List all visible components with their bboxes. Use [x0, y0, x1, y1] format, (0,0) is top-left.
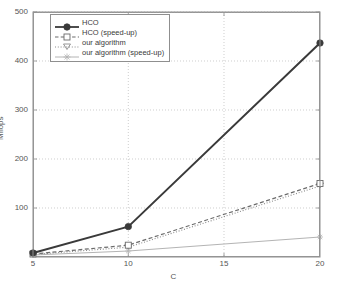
legend-item-our-algorithm-speedup: our algorithm (speed-up) [54, 48, 164, 58]
legend-label: our algorithm [80, 38, 126, 48]
legend-marker-open-square-icon [54, 28, 80, 38]
y-tick-label: 500 [0, 8, 28, 16]
legend-marker-filled-circle-icon [54, 18, 80, 28]
legend-marker-star-icon [54, 48, 80, 58]
legend-item-hco-speedup: HCO (speed-up) [54, 28, 164, 38]
y-tick-label: 300 [0, 106, 28, 114]
series-hco [30, 40, 323, 256]
series-our-algorithm [30, 183, 324, 257]
legend-marker-triangle-down-icon [54, 38, 80, 48]
x-tick-label: 15 [212, 260, 236, 268]
y-axis-label: Mflops [0, 116, 5, 140]
legend-label: our algorithm (speed-up) [80, 48, 164, 58]
legend-item-our-algorithm: our algorithm [54, 38, 164, 48]
y-tick-label: 200 [0, 155, 28, 163]
x-axis-label: C [0, 272, 347, 281]
x-tick-label: 5 [21, 260, 45, 268]
series-our-algorithm-speedup [30, 234, 323, 258]
x-tick-label: 20 [308, 260, 332, 268]
legend-label: HCO (speed-up) [80, 28, 137, 38]
y-tick-label: 400 [0, 57, 28, 65]
legend: HCO HCO (speed-up) our algorithm [50, 14, 170, 62]
y-tick-label: 100 [0, 204, 28, 212]
x-tick-label: 10 [116, 260, 140, 268]
legend-label: HCO [80, 18, 99, 28]
series-hco-speedup [30, 181, 323, 258]
legend-item-hco: HCO [54, 18, 164, 28]
chart-figure: 500 400 300 200 100 5 10 15 20 Mflops C … [0, 0, 347, 291]
